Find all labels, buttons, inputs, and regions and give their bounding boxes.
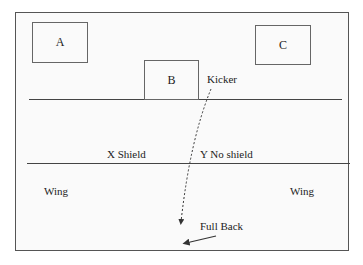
full-back-arrow [186,236,216,243]
kick-trajectory-arrow [181,89,211,222]
kick-path-overlay [0,0,363,265]
